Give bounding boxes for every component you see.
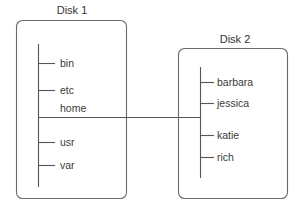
mount-diagram: Disk 1 bin etc home usr var Disk 2 barba… <box>0 0 303 209</box>
dir-jessica: jessica <box>216 97 249 109</box>
dir-home: home <box>60 102 86 114</box>
dir-rich: rich <box>217 151 234 163</box>
disk-2: Disk 2 barbara jessica katie rich <box>179 33 288 199</box>
dir-bin: bin <box>60 57 74 69</box>
dir-var: var <box>60 159 75 171</box>
dir-usr: usr <box>60 136 75 148</box>
dir-etc: etc <box>60 84 74 96</box>
disk-1: Disk 1 bin etc home usr var <box>17 4 127 199</box>
disk-2-box <box>179 49 288 199</box>
disk-1-title: Disk 1 <box>57 4 88 16</box>
dir-barbara: barbara <box>217 76 253 88</box>
disk-2-title: Disk 2 <box>220 33 251 45</box>
dir-katie: katie <box>217 129 239 141</box>
